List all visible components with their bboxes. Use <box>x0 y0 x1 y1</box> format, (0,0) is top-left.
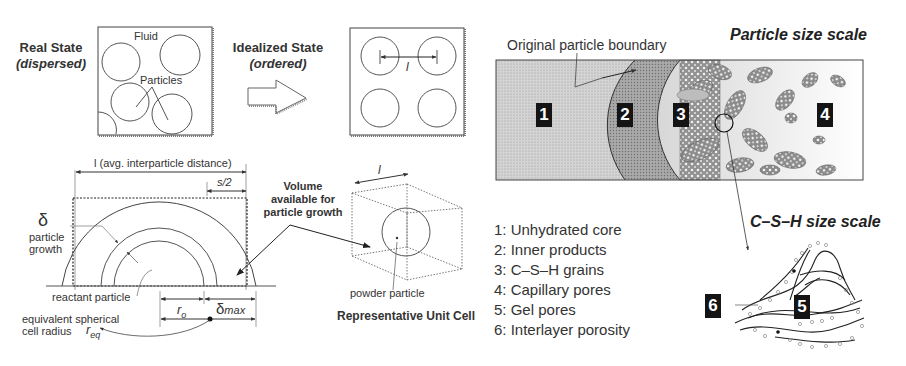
idealized-state-title: Idealized State <box>230 40 326 55</box>
req-label: req <box>86 322 100 340</box>
csh-scale-title: C–S–H size scale <box>750 213 881 231</box>
volume-callout-line-2: available for <box>258 193 348 205</box>
particle-scale-title: Particle size scale <box>730 26 867 44</box>
s-half-label: s/2 <box>217 176 232 188</box>
real-state-title: Real State <box>12 40 90 55</box>
delta-symbol: δ <box>38 210 48 231</box>
r0-label: ro <box>177 302 186 320</box>
volume-callout-arrows <box>237 225 370 275</box>
real-state-subtitle: (dispersed) <box>12 56 90 71</box>
unit-cell-edge-label: l <box>378 163 381 177</box>
unit-cell-title: Representative Unit Cell <box>337 309 475 323</box>
fluid-label: Fluid <box>134 30 158 42</box>
volume-callout-line-3: particle growth <box>258 206 348 218</box>
particles-label: Particles <box>140 74 182 86</box>
unit-cell-particle <box>355 174 430 290</box>
particle-growth-label-1: particle <box>29 231 64 243</box>
zone-badge-5: 5 <box>794 295 810 319</box>
zone-badge-6: 6 <box>705 294 721 318</box>
legend-item: 3: C–S–H grains <box>494 261 604 278</box>
transition-arrow-icon <box>248 80 307 114</box>
legend-item: 5: Gel pores <box>494 301 576 318</box>
volume-callout-line-1: Volume <box>258 180 348 192</box>
zone-badge-4: 4 <box>817 103 833 127</box>
unit-cell-cube <box>352 184 462 280</box>
zone-badge-3: 3 <box>673 103 689 127</box>
reactant-particle-label: reactant particle <box>52 291 130 303</box>
legend-item: 4: Capillary pores <box>494 281 611 298</box>
delta-max-label: δmax <box>216 300 245 317</box>
equivalent-radius-label-1: equivalent spherical <box>22 313 119 325</box>
particle-growth-label-2: growth <box>29 243 62 255</box>
zone-badge-1: 1 <box>536 103 552 127</box>
legend-item: 1: Unhydrated core <box>494 221 622 238</box>
idealized-state-subtitle: (ordered) <box>230 56 326 71</box>
idealized-state-box <box>350 28 465 136</box>
spacing-label: l <box>406 60 409 74</box>
legend-item: 2: Inner products <box>494 241 607 258</box>
original-boundary-label: Original particle boundary <box>507 37 667 53</box>
interparticle-distance-label: l (avg. interparticle distance) <box>94 157 232 169</box>
zone-badge-2: 2 <box>617 103 633 127</box>
legend-item: 6: Interlayer porosity <box>494 321 630 338</box>
powder-particle-label: powder particle <box>350 287 425 299</box>
equivalent-radius-label-2: cell radius <box>22 325 72 337</box>
